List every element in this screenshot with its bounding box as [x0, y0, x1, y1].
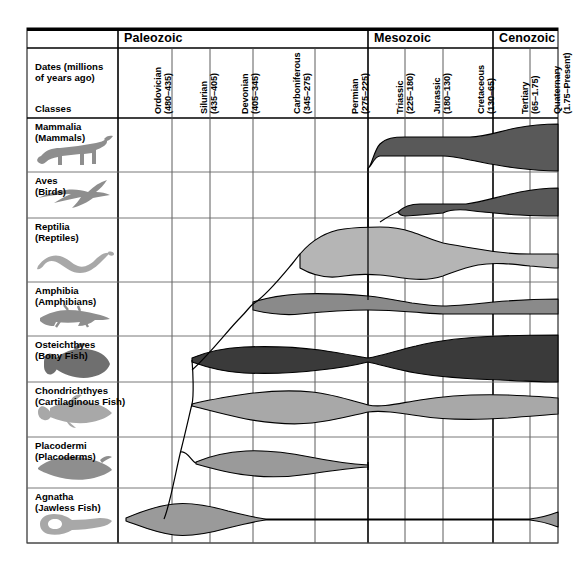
- ribbon-reptilia: [300, 227, 558, 279]
- ribbon-aves: [398, 188, 558, 216]
- dates-axis-label: Dates (millions of years ago): [35, 62, 103, 83]
- period-range: (435–405): [210, 73, 220, 114]
- ribbon-osteichthyes: [192, 335, 558, 382]
- classes-axis-label: Classes: [35, 104, 71, 115]
- class-common-name: (Amphibians): [35, 297, 96, 308]
- class-label-amphibia: Amphibia(Amphibians): [35, 286, 96, 307]
- class-label-mammalia: Mammalia(Mammals): [35, 122, 85, 143]
- ribbon-mammalia: [368, 124, 558, 171]
- era-label-paleozoic: Paleozoic: [124, 31, 183, 45]
- period-name: Triassic: [396, 73, 406, 114]
- class-common-name: (Bony Fish): [35, 351, 95, 362]
- period-range: (480–435): [164, 67, 174, 114]
- period-range: (345–275): [303, 53, 313, 115]
- class-label-chondrichthyes: Chondrichthyes(Cartilaginous Fish): [35, 386, 125, 407]
- period-range: (130–65): [487, 65, 497, 114]
- class-label-agnatha: Agnatha(Jawless Fish): [35, 492, 101, 513]
- period-range: (275–225): [360, 73, 370, 114]
- salamander-silhouette-icon: [40, 305, 110, 327]
- lamprey-silhouette-icon: [40, 514, 112, 535]
- class-common-name: (Mammals): [35, 133, 85, 144]
- evolution-chart: Paleozoic Mesozoic Cenozoic Dates (milli…: [0, 0, 581, 564]
- ribbon-placodermi: [196, 451, 368, 477]
- period-name: Tertiary: [521, 76, 531, 114]
- period-range: (1.75–Present): [563, 53, 573, 114]
- class-label-reptilia: Reptilia(Reptiles): [35, 222, 79, 243]
- era-label-cenozoic: Cenozoic: [499, 31, 555, 45]
- class-common-name: (Placoderms): [35, 452, 96, 463]
- period-range: (225–180): [405, 73, 415, 114]
- period-range: (180–130): [443, 73, 453, 114]
- period-range: (405–345): [250, 73, 260, 114]
- class-common-name: (Cartilaginous Fish): [35, 397, 125, 408]
- class-label-osteichthyes: Osteichthyes(Bony Fish): [35, 340, 95, 361]
- period-range: (65–1.75): [530, 76, 540, 114]
- era-label-mesozoic: Mesozoic: [374, 31, 431, 45]
- period-name: Devonian: [241, 73, 251, 114]
- class-label-placodermi: Placodermi(Placoderms): [35, 441, 96, 462]
- class-label-aves: Aves(Birds): [35, 176, 66, 197]
- class-common-name: (Birds): [35, 187, 66, 198]
- period-name: Permian: [351, 73, 361, 114]
- ribbon-amphibia: [253, 294, 558, 315]
- class-common-name: (Reptiles): [35, 233, 79, 244]
- ribbon-chondrichthyes: [192, 391, 558, 424]
- dates-axis-label-line1: Dates (millions: [35, 61, 103, 72]
- dates-axis-label-line2: of years ago): [35, 72, 95, 83]
- snake-silhouette-icon: [37, 252, 114, 273]
- class-common-name: (Jawless Fish): [35, 503, 101, 514]
